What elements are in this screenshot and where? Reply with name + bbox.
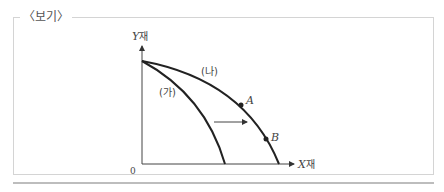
curve-label-na: (나) [201, 66, 218, 77]
x-axis-label: X재 [297, 158, 315, 171]
point-b-label: B [270, 131, 279, 144]
y-axis-label: Y재 [132, 30, 148, 43]
point-a [239, 103, 244, 108]
point-a-label: A [245, 94, 254, 107]
ppf-diagram: Y재 X재 0 (가) (나) A B [0, 0, 444, 192]
curve-label-ga: (가) [159, 87, 176, 98]
origin-label: 0 [130, 166, 136, 176]
point-b [264, 137, 269, 142]
